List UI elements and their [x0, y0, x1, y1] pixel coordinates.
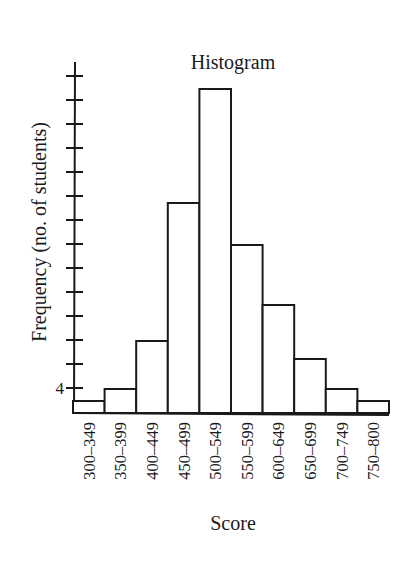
histogram-bar — [294, 359, 326, 413]
histogram-bar — [357, 401, 389, 413]
histogram-bar — [136, 341, 168, 413]
chart-title: Histogram — [191, 51, 276, 74]
y-axis-label: Frequency (no. of students) — [28, 122, 51, 342]
x-tick-label: 400–449 — [143, 422, 162, 480]
x-tick-label: 350–399 — [111, 422, 130, 480]
histogram-bar — [326, 389, 358, 413]
histogram-chart: Histogram Frequency (no. of students) 4 … — [0, 0, 415, 570]
histogram-bar — [199, 89, 231, 413]
histogram-bar — [263, 305, 295, 413]
y-axis-line — [74, 62, 75, 413]
x-tick-label: 650–699 — [301, 422, 320, 480]
x-tick-label: 450–499 — [175, 422, 194, 480]
x-axis-label: Score — [210, 512, 256, 534]
x-tick-label: 550–599 — [238, 422, 257, 480]
x-tick-label: 700–749 — [333, 422, 352, 480]
y-axis: 4 — [56, 62, 84, 413]
x-tick-label: 600–649 — [269, 422, 288, 480]
x-tick-label: 300–349 — [80, 422, 99, 480]
histogram-bars — [73, 89, 389, 413]
histogram-bar — [105, 389, 137, 413]
y-tick-label: 4 — [56, 379, 65, 398]
histogram-bar — [231, 245, 263, 413]
histogram-bar — [168, 203, 200, 413]
histogram-bar — [73, 401, 105, 413]
x-tick-label: 750–800 — [364, 422, 383, 480]
x-axis-tick-labels: 300–349350–399400–449450–499500–549550–5… — [80, 422, 383, 480]
x-tick-label: 500–549 — [206, 422, 225, 480]
